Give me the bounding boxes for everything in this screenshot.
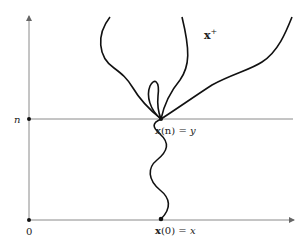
- random-walk-diagram: n 0 x+ x(n) = y x(0) = x: [0, 0, 306, 249]
- walk-branch-right: [161, 17, 292, 119]
- x0-equals-x-label: x(0) = x: [155, 225, 196, 236]
- n-dot: [27, 117, 31, 121]
- walk-branch-left: [101, 17, 161, 119]
- origin-label: 0: [26, 226, 32, 237]
- walk-branch-middle-left: [148, 81, 161, 119]
- n-label: n: [14, 114, 20, 125]
- x-plus-label: x+: [204, 27, 217, 42]
- origin-dot: [27, 218, 31, 222]
- xn-equals-y-label: x(n) = y: [155, 125, 196, 136]
